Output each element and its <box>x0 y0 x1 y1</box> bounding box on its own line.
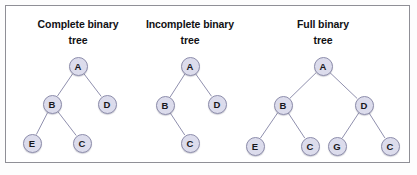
tree-node-t3-g: G <box>328 137 347 156</box>
tree-node-t1-c: C <box>73 134 92 153</box>
tree-node-t3-e: E <box>246 137 265 156</box>
tree-node-t3-a: A <box>314 57 333 76</box>
tree-nodes-overlay: Complete binarytreeABDECIncomplete binar… <box>0 0 417 175</box>
tree-node-t2-b: B <box>156 96 175 115</box>
tree-title-line-1: Full binary <box>243 16 403 32</box>
tree-node-t3-b: B <box>274 96 293 115</box>
tree-title-full-binary-tree: Full binarytree <box>243 16 403 48</box>
tree-node-t2-d: D <box>208 95 227 114</box>
tree-node-t3-d: D <box>355 96 374 115</box>
tree-node-t3-c2: C <box>381 137 400 156</box>
tree-node-t1-e: E <box>23 134 42 153</box>
tree-node-t1-d: D <box>98 95 117 114</box>
tree-title-line-2: tree <box>243 32 403 48</box>
tree-node-t2-c: C <box>181 134 200 153</box>
tree-node-t2-a: A <box>181 57 200 76</box>
tree-node-t3-c1: C <box>301 137 320 156</box>
tree-node-t1-a: A <box>69 57 88 76</box>
tree-node-t1-b: B <box>43 95 62 114</box>
binary-tree-figure: Complete binarytreeABDECIncomplete binar… <box>0 0 417 175</box>
